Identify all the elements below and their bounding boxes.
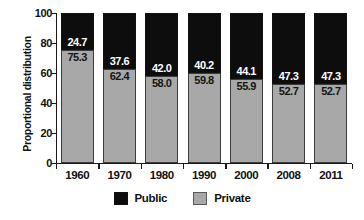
x-axis-tick-mark: [141, 164, 142, 169]
y-axis-tick-label: 100: [26, 8, 52, 19]
bar-value-label-private: 52.7: [314, 86, 347, 97]
bar-group[interactable]: 47.352.7: [272, 13, 305, 163]
bar-group[interactable]: 47.352.7: [314, 13, 347, 163]
chart-legend: Public Private: [0, 192, 364, 205]
legend-item-public[interactable]: Public: [114, 192, 168, 205]
x-axis-tick-mark: [352, 164, 353, 169]
bar-group[interactable]: 42.058.0: [145, 13, 178, 163]
stacked-bar-chart: Proportional distribution 100806040200 2…: [0, 0, 364, 220]
x-axis-tick-label: 1990: [182, 170, 226, 182]
legend-item-private[interactable]: Private: [193, 192, 250, 205]
y-axis-tick-mark: [51, 43, 56, 44]
x-axis-tick-mark: [225, 164, 226, 169]
bar-group[interactable]: 24.775.3: [61, 13, 94, 163]
bar-value-label-public: 42.0: [145, 63, 178, 74]
y-axis-tick-labels: 100806040200: [24, 0, 52, 220]
bar-value-label-private: 62.4: [103, 71, 136, 82]
gray-square-swatch-icon: [193, 192, 207, 205]
bar-value-label-public: 47.3: [314, 71, 347, 82]
legend-label-private: Private: [214, 193, 250, 205]
x-axis-tick-label: 2011: [309, 170, 353, 182]
bar-group[interactable]: 40.259.8: [188, 13, 221, 163]
bar-value-label-public: 47.3: [272, 71, 305, 82]
bar-value-label-public: 44.1: [230, 66, 263, 77]
x-axis-line: [56, 163, 352, 164]
y-axis-tick-mark: [51, 133, 56, 134]
bar-segment-private[interactable]: [61, 50, 94, 163]
plot-area: 24.775.337.662.442.058.040.259.844.155.9…: [56, 13, 352, 163]
y-axis-tick-label: 20: [26, 128, 52, 139]
x-axis-tick-label: 1970: [97, 170, 141, 182]
y-axis-tick-label: 60: [26, 68, 52, 79]
x-axis-tick-mark: [56, 164, 57, 169]
bar-segment-private[interactable]: [103, 69, 136, 163]
bar-value-label-public: 24.7: [61, 37, 94, 48]
y-axis-tick-label: 0: [26, 158, 52, 169]
bar-value-label-private: 58.0: [145, 78, 178, 89]
y-axis-tick-label: 80: [26, 38, 52, 49]
x-axis-tick-mark: [310, 164, 311, 169]
y-axis-tick-mark: [51, 13, 56, 14]
bar-value-label-public: 37.6: [103, 56, 136, 67]
y-axis-tick-label: 40: [26, 98, 52, 109]
bar-segment-private[interactable]: [188, 73, 221, 163]
black-square-swatch-icon: [114, 192, 128, 205]
x-axis-tick-mark: [98, 164, 99, 169]
bar-value-label-private: 52.7: [272, 86, 305, 97]
bar-value-label-private: 75.3: [61, 52, 94, 63]
x-axis-tick-label: 2000: [224, 170, 268, 182]
bar-group[interactable]: 37.662.4: [103, 13, 136, 163]
y-axis-tick-mark: [51, 103, 56, 104]
x-axis-tick-label: 2008: [267, 170, 311, 182]
bar-group[interactable]: 44.155.9: [230, 13, 263, 163]
legend-label-public: Public: [135, 193, 168, 205]
bar-value-label-private: 59.8: [188, 75, 221, 86]
bar-segment-private[interactable]: [145, 76, 178, 163]
x-axis-tick-label: 1960: [55, 170, 99, 182]
x-axis-tick-label: 1980: [140, 170, 184, 182]
bar-value-label-private: 55.9: [230, 81, 263, 92]
y-axis-tick-mark: [51, 73, 56, 74]
x-axis-tick-mark: [267, 164, 268, 169]
x-axis-tick-mark: [183, 164, 184, 169]
bar-value-label-public: 40.2: [188, 60, 221, 71]
